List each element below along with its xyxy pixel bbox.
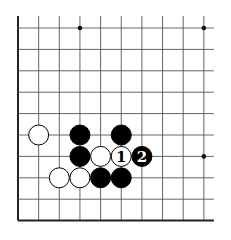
white-stone-icon xyxy=(91,146,111,166)
star-point-icon xyxy=(202,26,207,31)
star-point-icon xyxy=(78,26,83,31)
black-stone xyxy=(91,168,111,188)
white-stone xyxy=(49,168,69,188)
black-stone xyxy=(111,125,131,145)
black-stone-icon xyxy=(111,168,131,188)
move-number-label: 1 xyxy=(116,148,126,166)
black-stone-icon xyxy=(70,146,90,166)
black-stone-icon xyxy=(70,125,90,145)
star-point-icon xyxy=(202,154,207,159)
black-stone xyxy=(70,146,90,166)
black-stone xyxy=(70,125,90,145)
white-stone xyxy=(70,168,90,188)
move-number-label: 2 xyxy=(137,148,147,166)
white-stone xyxy=(91,146,111,166)
white-stone-move-1: 1 xyxy=(111,146,131,166)
black-stone-icon xyxy=(91,168,111,188)
white-stone xyxy=(29,125,49,145)
black-stone-icon xyxy=(111,125,131,145)
black-stone xyxy=(111,168,131,188)
white-stone-icon xyxy=(70,168,90,188)
white-stone-icon xyxy=(49,168,69,188)
black-stone-move-2: 2 xyxy=(132,146,152,166)
white-stone-icon xyxy=(29,125,49,145)
board-grid xyxy=(18,16,214,221)
go-board-diagram: 12 xyxy=(0,0,231,240)
